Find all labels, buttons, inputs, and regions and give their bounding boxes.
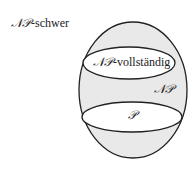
np-hard-label: 𝒩𝒫-schwer (11, 16, 69, 31)
np-complete-label: 𝒩𝒫-vollständig (93, 55, 170, 70)
p-label: 𝒫 (128, 108, 137, 122)
np-label: 𝒩𝒫 (154, 82, 174, 96)
